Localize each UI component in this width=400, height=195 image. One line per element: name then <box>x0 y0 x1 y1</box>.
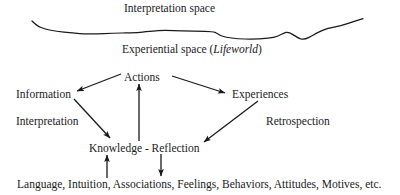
arrow-actions-to-information <box>77 74 121 91</box>
edge-label-retrospection: Retrospection <box>266 116 330 128</box>
arrow-experiences-to-knowledge <box>204 101 258 142</box>
edge-label-interpretation: Interpretation <box>16 116 79 128</box>
arrow-information-to-knowledge <box>74 99 110 138</box>
node-foundations: Language, Intuition, Associations, Feeli… <box>17 179 381 191</box>
node-information: Information <box>16 89 71 101</box>
concept-diagram: Interpretation space Experiential space … <box>0 0 400 195</box>
node-knowledge-reflection: Knowledge - Reflection <box>89 143 200 155</box>
experiential-space-emphasis: Lifeworld <box>213 43 258 55</box>
label-interpretation-space: Interpretation space <box>124 3 215 15</box>
wavy-boundary-line <box>32 19 363 40</box>
experiential-space-prefix: Experiential space ( <box>122 43 213 55</box>
node-experiences: Experiences <box>232 89 288 101</box>
arrow-actions-to-experiences <box>172 76 225 93</box>
experiential-space-suffix: ) <box>258 43 262 55</box>
label-experiential-space: Experiential space (Lifeworld) <box>122 44 262 56</box>
node-actions: Actions <box>124 72 160 84</box>
